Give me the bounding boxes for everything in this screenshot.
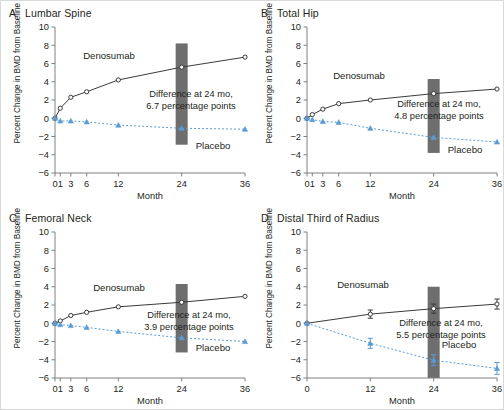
- panel-a-lumbar-spine: A Lumbar Spine −6−4−202468100136122436Mo…: [1, 1, 253, 206]
- placebo-marker: [310, 117, 315, 122]
- placebo-marker: [494, 366, 499, 371]
- denosumab-marker: [180, 65, 184, 69]
- denosumab-marker: [243, 294, 247, 298]
- placebo-marker: [68, 118, 73, 123]
- y-tick-label: 6: [296, 59, 301, 69]
- panel-b-total-hip: B Total Hip −6−4−202468100136122436Month…: [253, 1, 504, 206]
- panel-b-y-axis-label: Percent Change in BMD from Baseline: [265, 4, 274, 144]
- y-tick-label: 2: [296, 95, 301, 105]
- placebo-series-label: Placebo: [196, 342, 231, 353]
- y-tick-label: −4: [38, 355, 49, 365]
- y-tick-label: −6: [290, 168, 301, 178]
- panel-c-canvas: −6−4−202468100136122436MonthDenosumabPla…: [38, 227, 250, 406]
- placebo-marker: [58, 118, 63, 123]
- y-tick-label: −4: [38, 150, 49, 160]
- denosumab-marker: [116, 78, 120, 82]
- x-tick-label: 24: [428, 179, 438, 189]
- y-tick-label: −6: [290, 373, 301, 383]
- x-tick-label: 6: [336, 179, 341, 189]
- y-tick-label: 0: [296, 114, 301, 124]
- x-tick-label: 6: [84, 179, 89, 189]
- panel-d-y-axis-label: Percent Change in BMD from Baseline: [265, 209, 274, 349]
- x-tick-label: 36: [492, 384, 502, 394]
- denosumab-marker: [116, 305, 120, 309]
- x-tick-label: 1: [58, 179, 63, 189]
- placebo-series-label: Placebo: [448, 144, 483, 155]
- x-axis-label: Month: [389, 191, 415, 201]
- denosumab-marker: [58, 106, 62, 110]
- x-tick-label: 36: [240, 384, 250, 394]
- panel-c-svg: −6−4−202468100136122436MonthDenosumabPla…: [1, 206, 253, 410]
- placebo-marker: [336, 120, 341, 125]
- y-tick-label: 6: [44, 59, 49, 69]
- x-tick-label: 24: [176, 179, 186, 189]
- y-tick-label: 10: [39, 227, 49, 237]
- denosumab-series-label: Denosumab: [337, 279, 389, 290]
- x-tick-label: 24: [428, 384, 438, 394]
- y-tick-label: 8: [44, 41, 49, 51]
- denosumab-marker: [310, 113, 314, 117]
- denosumab-marker: [243, 55, 247, 59]
- difference-annotation-line2: 3.9 percentage points: [144, 322, 234, 332]
- y-tick-label: −6: [38, 373, 49, 383]
- denosumab-marker: [368, 98, 372, 102]
- y-tick-label: −4: [290, 150, 301, 160]
- difference-annotation-line1: Difference at 24 mo,: [147, 310, 231, 320]
- denosumab-marker: [321, 107, 325, 111]
- panel-b-svg: −6−4−202468100136122436MonthDenosumabPla…: [253, 1, 504, 206]
- x-tick-label: 3: [320, 179, 325, 189]
- y-tick-label: 0: [296, 319, 301, 329]
- denosumab-series-label: Denosumab: [83, 50, 135, 61]
- denosumab-marker: [85, 310, 89, 314]
- x-tick-label: 12: [113, 179, 123, 189]
- difference-annotation-line2: 4.8 percentage points: [394, 111, 484, 121]
- y-tick-label: −2: [290, 337, 301, 347]
- x-tick-label: 0: [304, 384, 309, 394]
- x-tick-label: 3: [68, 179, 73, 189]
- y-tick-label: 2: [296, 300, 301, 310]
- y-tick-label: 2: [44, 95, 49, 105]
- x-tick-label: 36: [240, 179, 250, 189]
- panel-a-canvas: −6−4−202468100136122436MonthDenosumabPla…: [38, 22, 250, 201]
- y-tick-label: 4: [44, 282, 49, 292]
- placebo-series-label: Placebo: [196, 140, 231, 151]
- panel-a-svg: −6−4−202468100136122436MonthDenosumabPla…: [1, 1, 253, 206]
- y-tick-label: 8: [296, 246, 301, 256]
- x-axis-label: Month: [137, 191, 163, 201]
- denosumab-marker: [69, 313, 73, 317]
- panel-a-plot: −6−4−202468100136122436MonthDenosumabPla…: [1, 1, 253, 206]
- x-axis-label: Month: [137, 396, 163, 406]
- placebo-series-label: Placebo: [442, 339, 477, 350]
- x-tick-label: 24: [176, 384, 186, 394]
- denosumab-series-label: Denosumab: [333, 70, 385, 81]
- denosumab-marker: [85, 90, 89, 94]
- x-tick-label: 3: [68, 384, 73, 394]
- panel-d-distal-third-of-radius: D Distal Third of Radius −6−4−2024681001…: [253, 206, 504, 410]
- panel-c-plot: −6−4−202468100136122436MonthDenosumabPla…: [1, 206, 253, 410]
- x-tick-label: 12: [365, 179, 375, 189]
- y-tick-label: 6: [44, 264, 49, 274]
- x-tick-label: 6: [84, 384, 89, 394]
- y-tick-label: 2: [44, 300, 49, 310]
- panel-c-femoral-neck: C Femoral Neck −6−4−202468100136122436Mo…: [1, 206, 253, 410]
- y-tick-label: −2: [38, 337, 49, 347]
- y-tick-label: 8: [44, 246, 49, 256]
- y-tick-label: 6: [296, 264, 301, 274]
- difference-annotation-line1: Difference at 24 mo,: [149, 89, 233, 99]
- x-axis-label: Month: [389, 396, 415, 406]
- panel-d-canvas: −6−4−202468100122436MonthDenosumabPlaceb…: [290, 227, 502, 406]
- placebo-marker: [84, 119, 89, 124]
- denosumab-marker: [495, 302, 499, 306]
- figure-bmd-percent-change: A Lumbar Spine −6−4−202468100136122436Mo…: [0, 0, 504, 410]
- y-tick-label: 4: [296, 282, 301, 292]
- placebo-line: [307, 118, 497, 142]
- panel-d-plot: −6−4−202468100122436MonthDenosumabPlaceb…: [253, 206, 504, 410]
- denosumab-marker: [432, 307, 436, 311]
- y-tick-label: 0: [44, 319, 49, 329]
- y-tick-label: −4: [290, 355, 301, 365]
- y-tick-label: −6: [38, 168, 49, 178]
- y-tick-label: 10: [39, 22, 49, 32]
- x-tick-label: 12: [365, 384, 375, 394]
- difference-annotation-line1: Difference at 24 mo,: [399, 318, 483, 328]
- denosumab-series-label: Denosumab: [93, 282, 145, 293]
